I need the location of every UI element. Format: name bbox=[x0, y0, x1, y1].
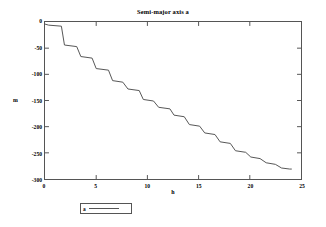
legend-line-sample bbox=[89, 208, 119, 209]
legend-item-label: a bbox=[83, 206, 86, 212]
legend-item-a: a bbox=[81, 204, 131, 213]
chart-figure: Semi-major axis a m 0-50-100-150-200-250… bbox=[0, 0, 326, 227]
legend: a bbox=[80, 203, 132, 214]
x-axis-label: h bbox=[44, 189, 302, 196]
